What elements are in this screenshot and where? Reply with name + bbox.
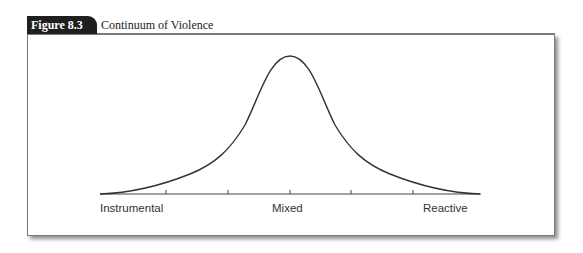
axis-label-instrumental: Instrumental	[100, 202, 163, 214]
axis-label-reactive: Reactive	[423, 202, 468, 214]
distribution-curve	[100, 56, 480, 194]
axis-ticks	[166, 190, 413, 194]
axis-label-mixed: Mixed	[272, 202, 303, 214]
bell-curve-chart	[0, 0, 583, 253]
